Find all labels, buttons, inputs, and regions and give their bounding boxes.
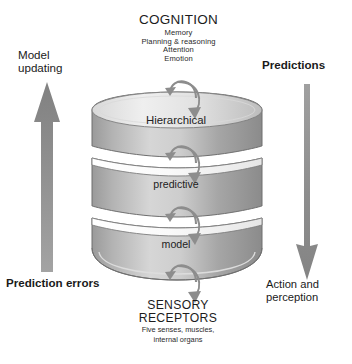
diagram-canvas: COGNITION Memory Planning & reasoning At… [0, 0, 352, 364]
predictions-arrow-icon [296, 84, 318, 280]
sensory-line-1: Five senses, muscles, [103, 326, 253, 334]
stack-label-model: model [88, 238, 264, 250]
sensory-line-2: internal organs [103, 336, 253, 344]
cognition-line-4: Emotion [106, 55, 251, 64]
cognition-block: COGNITION Memory Planning & reasoning At… [106, 12, 251, 63]
model-updating-arrow-icon [34, 82, 60, 272]
label-prediction-errors: Prediction errors [6, 276, 100, 289]
label-action-and-perception: Action and perception [266, 278, 346, 303]
stack-label-hierarchical: Hierarchical [88, 114, 264, 126]
stack-label-predictive: predictive [88, 178, 264, 190]
sensory-receptors-block: SENSORY RECEPTORS Five senses, muscles, … [103, 299, 253, 344]
label-model-updating: Model updating [18, 48, 92, 74]
cognition-heading: COGNITION [106, 12, 251, 27]
label-predictions: Predictions [262, 58, 350, 71]
sensory-heading-line2: RECEPTORS [103, 312, 253, 325]
